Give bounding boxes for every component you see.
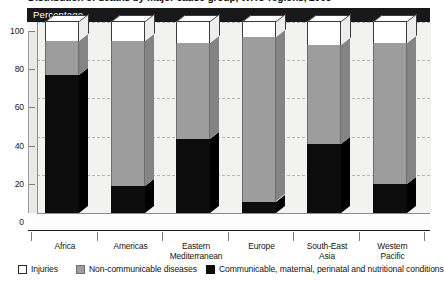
bar-segment-side-noncommunicable	[145, 34, 154, 186]
legend-item-noncommunicable[interactable]: Non-communicable diseases	[76, 264, 197, 274]
legend-item-communicable[interactable]: Communicable, maternal, perinatal and nu…	[206, 264, 444, 274]
bar-africa[interactable]	[45, 22, 91, 231]
y-tick-mark-40	[28, 146, 35, 147]
bar-segment-noncommunicable	[373, 43, 407, 184]
y-tick-label-20: 20	[0, 179, 24, 189]
bar-segment-injuries	[373, 22, 407, 43]
bar-segment-side-noncommunicable	[79, 34, 88, 75]
gridline-80	[37, 60, 430, 61]
x-tick-0	[31, 232, 32, 241]
y-axis-front-line	[28, 31, 29, 230]
gridline-100	[37, 22, 430, 23]
legend-item-injuries[interactable]: Injuries	[18, 264, 58, 274]
plot-floor-back-edge	[37, 213, 430, 214]
bar-segment-communicable	[373, 184, 407, 213]
gridline-60	[37, 98, 430, 99]
x-axis-label-line: Pacific	[357, 252, 429, 262]
plot-area: 100806040200	[0, 22, 438, 238]
bar-segment-injuries	[242, 22, 276, 37]
x-axis-label-line: Europe	[226, 242, 298, 252]
bar-segment-injuries	[176, 22, 210, 43]
bar-segment-side-communicable	[210, 131, 219, 213]
bar-eastern-mediterranean[interactable]	[176, 22, 222, 231]
bar-segment-communicable	[45, 75, 79, 213]
legend-label-injuries: Injuries	[31, 264, 58, 274]
y-tick-mark-100	[28, 31, 35, 32]
bar-segment-injuries	[111, 22, 145, 41]
legend-swatch-noncommunicable-icon	[76, 265, 85, 274]
bar-segment-communicable	[307, 144, 341, 213]
x-axis-label-line: Africa	[29, 242, 101, 252]
x-axis-label-europe: Europe	[226, 242, 298, 252]
bar-segment-injuries	[45, 22, 79, 41]
bar-segment-side-communicable	[79, 68, 88, 213]
x-axis-label-line: Asia	[291, 252, 363, 262]
y-tick-mark-80	[28, 69, 35, 70]
x-axis-label-south-east-asia: South-EastAsia	[291, 242, 363, 261]
x-tick-2	[162, 232, 163, 241]
x-axis-label-americas: Americas	[95, 242, 167, 252]
y-tick-label-100: 100	[0, 26, 24, 36]
y-tick-label-80: 80	[0, 64, 24, 74]
bar-segment-communicable	[176, 139, 210, 213]
x-axis-label-line: Mediterranean	[160, 252, 232, 262]
y-tick-mark-60	[28, 107, 35, 108]
bar-segment-side-noncommunicable	[210, 36, 219, 139]
x-axis-label-line: Americas	[95, 242, 167, 252]
legend-label-communicable: Communicable, maternal, perinatal and nu…	[219, 264, 444, 274]
bar-segment-communicable	[242, 202, 276, 213]
bar-south-east-asia[interactable]	[307, 22, 353, 231]
y-tick-label-0: 0	[0, 217, 24, 227]
x-tick-3	[228, 232, 229, 241]
legend-swatch-injuries-icon	[18, 265, 27, 274]
y-axis-line	[37, 22, 38, 213]
bar-segment-side-communicable	[341, 137, 350, 213]
y-tick-mark-20	[28, 184, 35, 185]
bar-segment-noncommunicable	[45, 41, 79, 75]
bar-western-pacific[interactable]	[373, 22, 419, 231]
bar-americas[interactable]	[111, 22, 157, 231]
bar-segment-noncommunicable	[111, 41, 145, 186]
bar-segment-injuries	[307, 22, 341, 45]
gridline-20	[37, 175, 430, 176]
x-tick-1	[97, 232, 98, 241]
bar-segment-noncommunicable	[307, 45, 341, 144]
x-tick-end	[424, 232, 425, 241]
x-axis-label-africa: Africa	[29, 242, 101, 252]
legend-label-noncommunicable: Non-communicable diseases	[89, 264, 197, 274]
x-axis-label-eastern-mediterranean: EasternMediterranean	[160, 242, 232, 261]
x-tick-5	[359, 232, 360, 241]
bar-segment-noncommunicable	[242, 37, 276, 201]
bar-segment-side-noncommunicable	[276, 30, 285, 201]
bar-europe[interactable]	[242, 22, 288, 231]
y-tick-label-60: 60	[0, 102, 24, 112]
bar-segment-side-noncommunicable	[341, 38, 350, 144]
chart-title: Distribution of deaths by major cause gr…	[28, 0, 432, 3]
x-axis-label-western-pacific: WesternPacific	[357, 242, 429, 261]
x-tick-4	[293, 232, 294, 241]
y-tick-label-40: 40	[0, 141, 24, 151]
bar-segment-noncommunicable	[176, 43, 210, 139]
gridline-40	[37, 137, 430, 138]
chart-legend: Injuries Non-communicable diseases Commu…	[0, 264, 438, 279]
bar-segment-side-noncommunicable	[407, 36, 416, 184]
bar-segment-communicable	[111, 186, 145, 213]
legend-swatch-communicable-icon	[206, 265, 215, 274]
